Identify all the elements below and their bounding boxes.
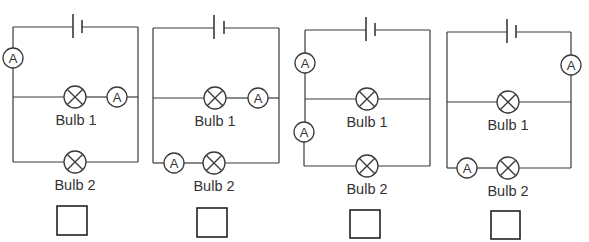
ammeter-symbol: A [9,51,18,66]
ammeter-symbol: A [463,161,472,176]
battery-icon [214,15,224,39]
bulb-icon [204,87,226,109]
answer-checkbox[interactable] [197,208,227,237]
ammeter-symbol: A [301,56,310,71]
battery-icon [73,14,82,38]
bulb-icon [64,151,86,173]
ammeter-symbol: A [300,125,309,140]
ammeter-icon: A [164,153,184,173]
circuit-2: A Bulb 1 A Bulb 2 [153,15,279,237]
ammeter-symbol: A [567,58,576,73]
bulb-icon [356,155,378,177]
bulb-1-label: Bulb 1 [487,117,528,133]
ammeter-icon: A [295,53,315,73]
ammeter-icon: A [561,55,581,75]
bulb-2-label: Bulb 2 [346,181,387,197]
bulb-1-label: Bulb 1 [194,113,235,129]
bulb-1-label: Bulb 1 [346,114,387,130]
bulb-2-label: Bulb 2 [193,178,234,194]
bulb-2-label: Bulb 2 [487,183,528,199]
ammeter-icon: A [294,122,314,142]
ammeter-icon: A [248,88,268,108]
ammeter-icon: A [107,87,127,107]
ammeter-symbol: A [254,91,263,106]
circuit-diagrams: A A Bulb 1 Bulb 2 [0,0,589,242]
bulb-icon [64,86,86,108]
answer-checkbox[interactable] [350,210,380,238]
circuit-4: A Bulb 1 A Bulb 2 [447,19,581,239]
answer-checkbox[interactable] [491,211,520,239]
ammeter-symbol: A [113,90,122,105]
bulb-icon [497,157,519,179]
bulb-icon [356,88,378,110]
ammeter-symbol: A [170,156,179,171]
bulb-icon [497,91,519,113]
ammeter-icon: A [457,158,477,178]
circuit-3: A Bulb 1 A Bulb 2 [294,17,430,238]
battery-icon [507,19,516,43]
ammeter-icon: A [3,48,23,68]
answer-checkbox[interactable] [57,206,87,235]
bulb-2-label: Bulb 2 [54,177,95,193]
battery-icon [366,17,375,41]
circuit-1: A A Bulb 1 Bulb 2 [3,14,138,235]
bulb-1-label: Bulb 1 [55,112,96,128]
bulb-icon [203,152,225,174]
